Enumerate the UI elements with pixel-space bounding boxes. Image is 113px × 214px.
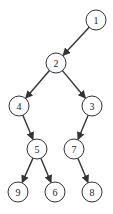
- edge-4-to-5: [23, 115, 33, 139]
- edge-1-to-2: [63, 27, 89, 55]
- tree-node-8: 8: [82, 182, 102, 202]
- tree-node-4: 4: [9, 96, 29, 116]
- edge-7-to-8: [78, 158, 88, 182]
- node-label: 3: [90, 101, 95, 112]
- edge-5-to-9: [22, 158, 33, 182]
- tree-node-5: 5: [27, 139, 47, 159]
- edge-5-to-6: [41, 158, 51, 182]
- node-label: 5: [35, 144, 40, 155]
- node-label: 6: [53, 187, 58, 198]
- node-label: 4: [17, 101, 22, 112]
- node-label: 9: [16, 187, 21, 198]
- tree-node-9: 9: [8, 182, 28, 202]
- edge-2-to-4: [26, 71, 50, 98]
- tree-diagram: 124357968: [0, 0, 113, 214]
- nodes-group: 124357968: [8, 10, 106, 202]
- node-label: 7: [72, 144, 77, 155]
- tree-node-3: 3: [82, 96, 102, 116]
- edge-3-to-7: [78, 115, 88, 139]
- edge-2-to-3: [62, 71, 85, 98]
- edges-group: [22, 27, 89, 182]
- tree-node-2: 2: [46, 53, 66, 73]
- node-label: 8: [90, 187, 95, 198]
- tree-node-7: 7: [64, 139, 84, 159]
- tree-node-6: 6: [45, 182, 65, 202]
- node-label: 1: [94, 15, 99, 26]
- tree-node-1: 1: [86, 10, 106, 30]
- node-label: 2: [54, 58, 59, 69]
